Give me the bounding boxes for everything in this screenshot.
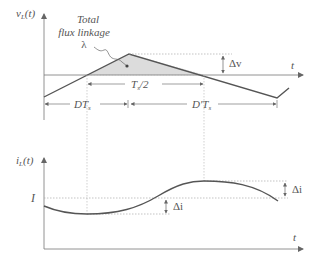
delta-i-high-label: Δi (292, 183, 302, 195)
dts-label: DTs (73, 98, 91, 112)
annotation-flux-linkage: flux linkage (58, 26, 110, 38)
t-label-top: t (291, 59, 295, 71)
annotation-total: Total (77, 13, 99, 25)
inductor-voltage-current-diagram: Δv t vL(t) Total flux linkage λ Ts/2 DTs… (0, 0, 314, 256)
i-axis-label: iL(t) (16, 154, 34, 168)
voltage-waveform (44, 54, 289, 98)
dc-level-label: I (30, 191, 36, 205)
t-label-bottom: t (293, 231, 297, 243)
dprime-ts-label: D′Ts (191, 98, 211, 112)
delta-v-label: Δv (229, 57, 242, 69)
delta-i-low-label: Δi (173, 200, 183, 212)
annotation-lambda: λ (81, 38, 87, 50)
current-waveform (44, 181, 278, 214)
v-axis-label: vL(t) (16, 7, 36, 21)
flux-linkage-area (87, 54, 204, 75)
voltage-plot: Δv t vL(t) Total flux linkage λ Ts/2 DTs… (16, 7, 303, 120)
current-plot: Δi Δi iL(t) I t (16, 154, 303, 249)
half-period-label: Ts/2 (131, 78, 149, 92)
